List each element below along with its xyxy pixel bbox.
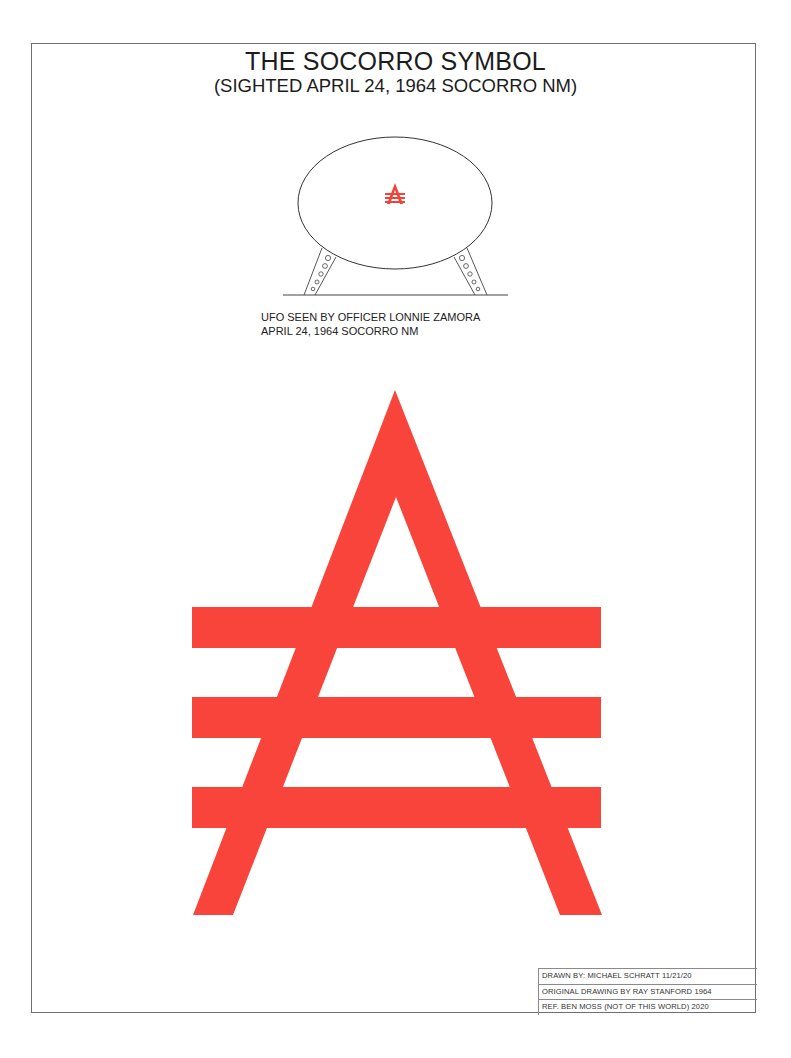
title-block-drawn-by: DRAWN BY: MICHAEL SCHRATT 11/21/20: [539, 969, 757, 985]
symbol-bar-3: [192, 787, 601, 828]
symbol-bar-2: [192, 697, 601, 738]
title-block: DRAWN BY: MICHAEL SCHRATT 11/21/20 ORIGI…: [538, 968, 757, 1015]
title-block-original-drawing: ORIGINAL DRAWING BY RAY STANFORD 1964: [539, 985, 757, 1001]
symbol-a-shape: [193, 390, 602, 915]
symbol-bar-1: [192, 607, 601, 648]
title-block-reference: REF. BEN MOSS (NOT OF THIS WORLD) 2020: [539, 1000, 757, 1015]
socorro-symbol: [0, 0, 791, 1058]
